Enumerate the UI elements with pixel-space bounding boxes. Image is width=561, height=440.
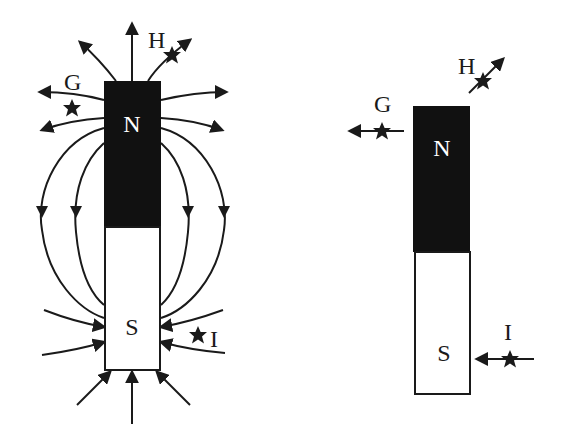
right-magnet-north-half — [413, 106, 470, 252]
left-point-i-star-icon — [189, 326, 207, 344]
right-point-h-label: H — [458, 53, 475, 79]
right-point-i-label: I — [504, 319, 512, 345]
left-point-g-label: G — [64, 69, 81, 95]
left-magnet-north-half — [104, 81, 161, 227]
right-magnet-group: N S G H I — [350, 53, 534, 394]
right-point-h-star-icon — [474, 72, 492, 90]
left-point-h-label: H — [148, 27, 165, 53]
right-magnet-south-half — [415, 252, 470, 394]
left-point-g-star-icon — [63, 99, 81, 117]
left-north-label: N — [123, 111, 140, 137]
magnet-diagram: N S G H I N S G H I — [0, 0, 561, 440]
right-point-g-label: G — [374, 91, 391, 117]
left-magnet-group: N S G H I — [36, 24, 230, 424]
right-north-label: N — [433, 135, 450, 161]
left-south-label: S — [125, 314, 138, 340]
left-magnet-south-half — [105, 227, 160, 370]
left-point-i-label: I — [210, 326, 218, 352]
right-south-label: S — [437, 340, 450, 366]
